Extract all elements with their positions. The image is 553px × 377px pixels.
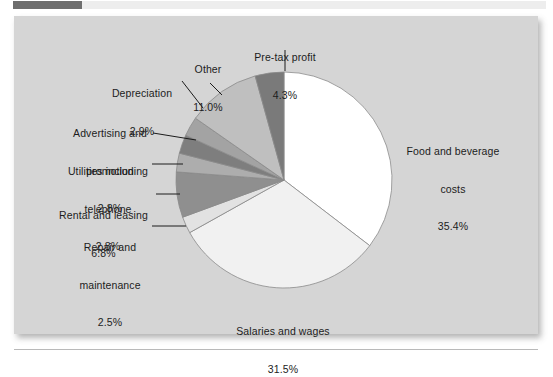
bottom-divider	[14, 349, 538, 350]
slice-label-other: Other 11.0%	[178, 38, 238, 138]
slice-label-food-line2: costs	[398, 183, 508, 196]
slice-label-salaries: Salaries and wages 31.5%	[218, 300, 348, 377]
slice-label-repair-pct: 2.5%	[70, 316, 150, 329]
slice-label-repair-line2: maintenance	[70, 279, 150, 292]
slice-label-food: Food and beverage costs 35.4%	[398, 120, 508, 258]
slice-label-repair: Repair and maintenance 2.5%	[70, 216, 150, 354]
slice-label-salaries-text: Salaries and wages	[218, 325, 348, 338]
slice-label-other-text: Other	[178, 63, 238, 76]
slice-label-pretax: Pre-tax profit 4.3%	[237, 26, 333, 126]
slice-label-utilities-line1: Utilities including	[62, 165, 154, 178]
slice-label-pretax-pct: 4.3%	[237, 89, 333, 102]
slice-label-salaries-pct: 31.5%	[218, 363, 348, 376]
slice-label-food-line1: Food and beverage	[398, 145, 508, 158]
slice-label-advertising-line1: Advertising and	[67, 127, 153, 140]
slice-label-other-pct: 11.0%	[178, 101, 238, 114]
slice-label-depreciation-text: Depreciation	[103, 87, 181, 100]
slice-label-food-pct: 35.4%	[398, 220, 508, 233]
slice-label-repair-line1: Repair and	[70, 241, 150, 254]
slice-label-pretax-text: Pre-tax profit	[237, 51, 333, 64]
